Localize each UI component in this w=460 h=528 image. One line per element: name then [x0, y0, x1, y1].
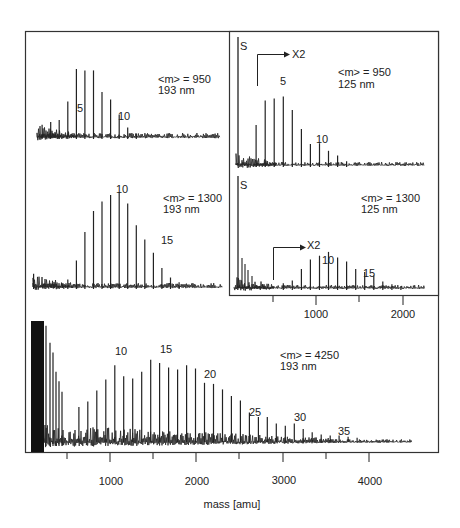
- p2-peak-label-10: 10: [116, 183, 128, 195]
- p3-peak-label-10: 10: [316, 133, 328, 145]
- p4-annotation-wavelength: 125 nm: [361, 203, 398, 215]
- p5-peak-label-35: 35: [338, 425, 350, 437]
- x-tick-3000: 3000: [272, 474, 296, 486]
- p5-annotation-wavelength: 193 nm: [280, 360, 317, 372]
- p3-scale-marker: X2: [292, 48, 305, 60]
- x-tick-2000: 2000: [185, 475, 209, 487]
- p5-peak-label-10: 10: [115, 345, 127, 357]
- p5-peak-label-20: 20: [204, 368, 216, 380]
- mass-spectra-figure: <m> = 950 193 nm 5 10 <m> = 1300 193 nm …: [0, 0, 460, 528]
- p3-marker-s: S: [240, 40, 247, 52]
- x-tick-4000: 4000: [358, 475, 382, 487]
- x-tick-1000: 1000: [99, 475, 123, 487]
- inset-x-axis: [273, 296, 403, 305]
- inset-tick-1000: 1000: [304, 308, 328, 320]
- x-axis-title: mass [amu]: [204, 498, 261, 510]
- spectrum-m4250-193nm: [31, 321, 412, 452]
- p4-peak-label-15: 15: [363, 267, 375, 279]
- p1-peak-label-5: 5: [77, 102, 83, 114]
- inset-tick-2000: 2000: [391, 308, 415, 320]
- main-x-axis: [67, 453, 369, 462]
- p4-peak-label-10: 10: [322, 254, 334, 266]
- p1-annotation-wavelength: 193 nm: [158, 84, 195, 96]
- p5-peak-label-25: 25: [249, 406, 261, 418]
- p5-peak-label-15: 15: [160, 343, 172, 355]
- p3-annotation-mass: <m> = 950: [338, 66, 391, 78]
- p4-scale-marker: X2: [307, 239, 320, 251]
- p5-peak-label-30: 30: [294, 411, 306, 423]
- p3-peak-label-5: 5: [280, 75, 286, 87]
- p2-annotation-wavelength: 193 nm: [163, 203, 200, 215]
- p3-annotation-wavelength: 125 nm: [338, 78, 375, 90]
- p1-peak-label-10: 10: [118, 110, 130, 122]
- p4-marker-s: S: [240, 179, 247, 191]
- p2-peak-label-15: 15: [161, 234, 173, 246]
